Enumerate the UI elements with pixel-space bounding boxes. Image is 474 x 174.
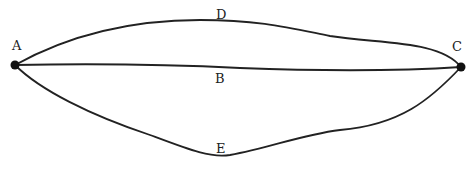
label-a: A xyxy=(12,39,21,52)
point-a-dot xyxy=(11,61,20,70)
path-e xyxy=(15,65,461,156)
diagram-drawing xyxy=(0,0,474,174)
path-d xyxy=(15,20,461,67)
path-b xyxy=(15,64,461,70)
label-e: E xyxy=(216,142,226,155)
label-d: D xyxy=(216,8,226,21)
label-c: C xyxy=(452,40,462,53)
label-b: B xyxy=(215,72,225,85)
path-diagram: A D B C E xyxy=(0,0,474,174)
point-c-dot xyxy=(457,63,466,72)
